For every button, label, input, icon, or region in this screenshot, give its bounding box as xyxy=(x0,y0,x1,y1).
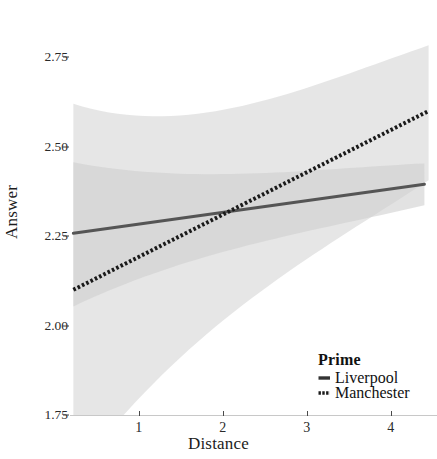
solid-line-key xyxy=(318,372,333,384)
dotted-line-key xyxy=(318,387,333,399)
y-tick-mark xyxy=(63,146,69,147)
x-axis-title: Distance xyxy=(0,434,437,454)
legend: Prime Liverpool Manchester xyxy=(318,352,410,400)
y-tick-mark xyxy=(63,236,69,237)
y-axis-title: Answer xyxy=(2,185,22,239)
legend-label-manchester: Manchester xyxy=(335,385,410,400)
x-tick-mark xyxy=(307,411,308,416)
legend-item-manchester[interactable]: Manchester xyxy=(318,385,410,400)
x-axis-line xyxy=(70,415,437,416)
legend-item-liverpool[interactable]: Liverpool xyxy=(318,370,410,385)
x-tick-mark xyxy=(391,411,392,416)
y-tick-mark xyxy=(63,415,69,416)
y-tick-mark xyxy=(63,325,69,326)
y-tick-mark xyxy=(63,57,69,58)
legend-label-liverpool: Liverpool xyxy=(335,370,398,385)
x-tick-mark xyxy=(223,411,224,416)
x-tick-mark xyxy=(139,411,140,416)
legend-title: Prime xyxy=(318,352,410,368)
chart-container: Answer 2.752.502.252.001.75 xyxy=(0,0,437,459)
